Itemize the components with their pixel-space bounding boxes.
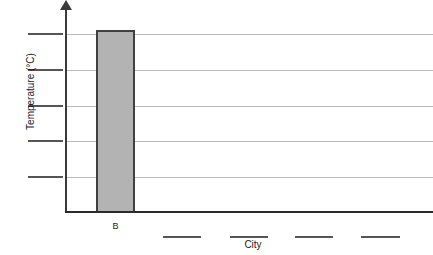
y-tick-blank-1 xyxy=(28,176,63,178)
bar-category-b xyxy=(96,30,135,213)
x-category-blank-4 xyxy=(361,236,400,238)
y-axis-line xyxy=(65,8,67,213)
x-axis-line xyxy=(65,211,433,213)
x-category-blank-1 xyxy=(163,236,201,238)
x-category-blank-3 xyxy=(295,236,333,238)
y-axis-title: Temperature (°C) xyxy=(25,12,36,172)
bar-chart: Temperature (°C) B City xyxy=(0,0,433,255)
x-category-label-b: B xyxy=(96,221,135,231)
x-category-blank-2 xyxy=(230,236,268,238)
x-axis-title: City xyxy=(213,239,293,250)
